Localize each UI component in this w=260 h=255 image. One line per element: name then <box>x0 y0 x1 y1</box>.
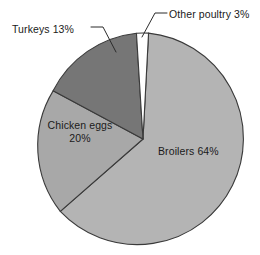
slice-label-chicken-eggs: Chicken eggs 20% <box>40 119 120 144</box>
slice-label-chicken-eggs-name: Chicken eggs <box>48 119 113 131</box>
pie-chart-svg <box>0 0 260 255</box>
slice-label-other-poultry: Other poultry 3% <box>169 8 249 21</box>
pie-chart-figure: Other poultry 3% Turkeys 13% Chicken egg… <box>0 0 260 255</box>
slice-label-broilers: Broilers 64% <box>158 145 219 158</box>
slice-label-chicken-eggs-value: 20% <box>69 132 90 144</box>
slice-label-turkeys: Turkeys 13% <box>12 23 74 36</box>
